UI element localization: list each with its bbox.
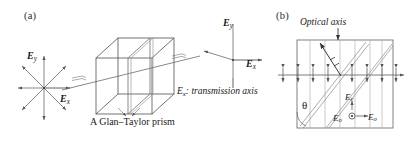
input-ey-symbol: E — [27, 50, 34, 61]
output-axis-label-ex: Ex — [246, 58, 256, 71]
input-axis-label-ey: Ey — [27, 50, 37, 63]
propagation-glyph-in — [72, 76, 86, 81]
unpolarized-light-star — [18, 56, 70, 120]
field-label-ordinary-arrow: Eo — [368, 112, 377, 122]
transmission-axis-note: Ex: transmission axis — [177, 86, 258, 97]
input-axis-label-ex: Ex — [60, 93, 70, 106]
birefringent-crystal — [297, 40, 393, 128]
input-ey-subscript: y — [34, 55, 37, 63]
output-ey-symbol: E — [223, 17, 230, 28]
Ee-subscript: e — [351, 95, 354, 102]
output-ex-symbol: E — [246, 58, 253, 69]
output-ey-subscript: y — [230, 22, 233, 30]
optical-axis-label: Optical axis — [300, 17, 346, 27]
output-axis-label-ey: Ey — [223, 17, 233, 30]
figure-linework — [0, 0, 410, 144]
input-ex-symbol: E — [60, 93, 67, 104]
extraordinary-ray-path — [320, 43, 341, 76]
prism-caption: A Glan–Taylor prism — [90, 116, 175, 127]
theta-angle-label: θ — [302, 99, 307, 111]
output-ex-subscript: x — [253, 63, 256, 71]
glan-taylor-prism — [96, 38, 174, 114]
field-label-extraordinary: Ee — [345, 92, 353, 102]
optics-figure: (a) (b) — [0, 0, 410, 144]
input-ex-subscript: x — [67, 98, 70, 106]
transmission-text: : transmission axis — [186, 86, 258, 96]
Eo-dot-subscript: o — [339, 116, 342, 123]
field-label-ordinary-dot: Eo — [333, 113, 342, 123]
Eo-out-of-plane-dot — [349, 113, 355, 119]
Eo-arrow-subscript: o — [374, 115, 377, 122]
